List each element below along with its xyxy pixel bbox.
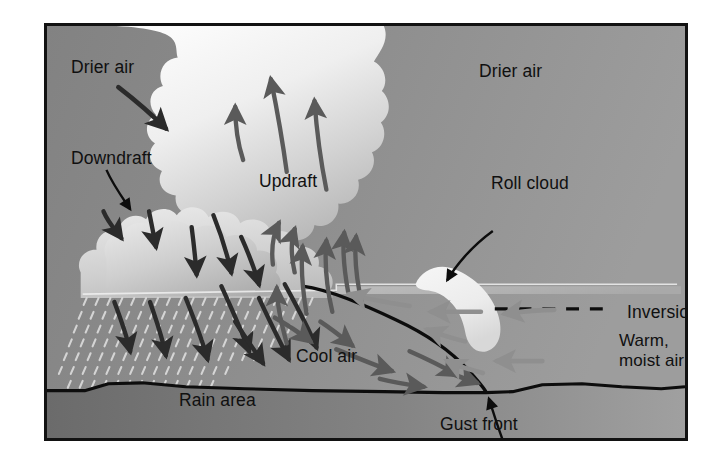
screenshot-canvas: Drier air Drier air Downdraft Updraft Ro… xyxy=(0,0,720,462)
label-roll-cloud: Roll cloud xyxy=(491,174,569,194)
label-cool-air: Cool air xyxy=(296,347,357,367)
weather-diagram-figure: Drier air Drier air Downdraft Updraft Ro… xyxy=(44,23,688,441)
label-updraft: Updraft xyxy=(259,172,317,192)
label-inversion: Inversion xyxy=(627,303,688,323)
label-warm-moist-air-line2: moist air xyxy=(619,351,684,370)
label-downdraft: Downdraft xyxy=(71,149,152,169)
label-drier-air-left: Drier air xyxy=(71,58,134,78)
label-drier-air-right: Drier air xyxy=(479,62,542,82)
label-warm-moist-air-line1: Warm, xyxy=(619,331,669,350)
ground-surface xyxy=(47,383,685,438)
diagram-artwork xyxy=(47,26,685,438)
label-gust-front: Gust front xyxy=(440,415,518,435)
label-rain-area: Rain area xyxy=(179,391,256,411)
